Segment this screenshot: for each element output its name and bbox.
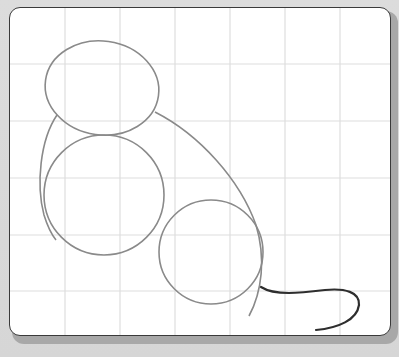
tail-stroke bbox=[261, 287, 359, 330]
body-circle bbox=[44, 135, 164, 255]
drawing-stage bbox=[0, 0, 399, 357]
head-ellipse bbox=[39, 34, 165, 143]
sketch-layer[interactable] bbox=[0, 0, 399, 357]
